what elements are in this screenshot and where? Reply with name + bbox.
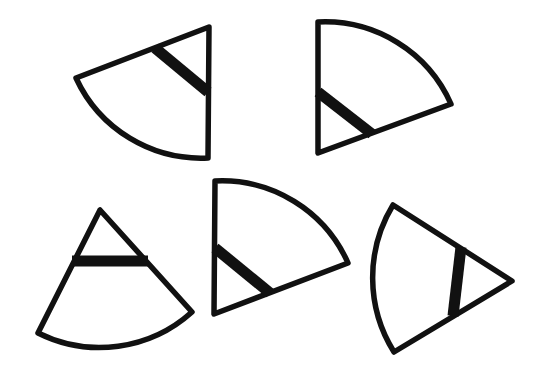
sector-outline — [38, 210, 192, 348]
sector-shape-4 — [214, 181, 348, 314]
sector-shape-3 — [38, 210, 192, 348]
sector-bar — [215, 248, 270, 293]
sector-bar — [155, 48, 208, 92]
sector-outline — [373, 205, 512, 352]
sector-outline — [76, 27, 209, 158]
sector-shape-2 — [318, 22, 451, 153]
sector-bar — [318, 92, 372, 134]
sector-bar — [453, 247, 461, 316]
sector-outline — [214, 181, 348, 314]
sector-shape-1 — [76, 27, 209, 158]
sector-shape-5 — [373, 205, 512, 352]
sector-outline — [318, 22, 451, 153]
sector-diagram — [0, 0, 541, 373]
